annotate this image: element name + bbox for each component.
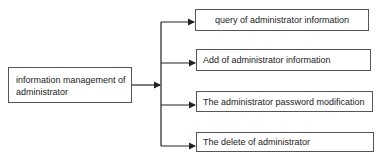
child-node-label: Add of administrator information [203,54,331,66]
child-node-password: The administrator password modification [196,91,373,112]
child-node-label: The administrator password modification [203,96,365,108]
root-node: information management of administrator [8,67,132,103]
child-node-query: query of administrator information [195,9,369,31]
child-node-label: query of administrator information [215,14,349,26]
child-node-add: Add of administrator information [196,49,371,71]
child-node-label: The delete of administrator [203,136,310,148]
child-node-delete: The delete of administrator [196,132,374,152]
root-node-label: information management of administrator [16,75,126,97]
